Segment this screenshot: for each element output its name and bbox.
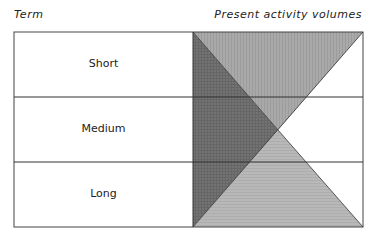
- row-label-short: Short: [14, 57, 193, 70]
- row-label-medium: Medium: [14, 122, 193, 135]
- term-volume-diagram: [0, 0, 374, 240]
- row-label-long: Long: [14, 187, 193, 200]
